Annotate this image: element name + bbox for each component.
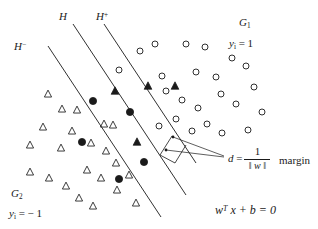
margin-word-text: margin [279, 154, 310, 166]
marker-filled-triangle [111, 87, 119, 94]
distance-denominator: ‖ w ‖ [247, 161, 268, 172]
marker-hollow-circle [137, 48, 143, 54]
marker-hollow-triangle [26, 141, 33, 148]
distance-symbol: d = [228, 153, 242, 164]
label-class-negative: yi = − 1 [9, 208, 42, 221]
label-H-minus-base: H [14, 40, 22, 52]
marker-hollow-triangle [97, 174, 104, 181]
distance-fraction: 1 ‖ w ‖ [244, 146, 270, 171]
marker-hollow-triangle [73, 106, 80, 113]
marker-filled-triangle [133, 138, 141, 145]
equation-rest: x + b = 0 [230, 203, 276, 217]
margin-bracket-segment-2 [175, 145, 186, 163]
label-G2-sub: 2 [19, 193, 23, 201]
marker-hollow-circle [213, 74, 219, 80]
marker-hollow-circle [163, 88, 169, 94]
label-hyperplane-H-minus: H− [14, 41, 26, 52]
marker-hollow-circle [202, 44, 208, 50]
label-y-positive-value: = 1 [239, 37, 253, 49]
margin-endpoint-dot-1 [165, 149, 168, 152]
marker-hollow-triangle [75, 194, 82, 201]
margin-leader-line-1 [166, 150, 224, 157]
label-H-text: H [59, 10, 67, 22]
marker-hollow-circle [156, 123, 162, 129]
marker-hollow-triangle [87, 139, 94, 146]
marker-hollow-circle [233, 101, 239, 107]
marker-hollow-circle [173, 116, 179, 122]
marker-hollow-circle [116, 67, 122, 73]
marker-hollow-circle [179, 97, 185, 103]
label-G2-base: G [11, 187, 19, 199]
figure-canvas [0, 0, 318, 229]
marker-hollow-triangle [57, 144, 64, 151]
marker-hollow-circle [193, 69, 199, 75]
distance-symbol-text: d [228, 152, 234, 164]
equation-T: T [223, 204, 227, 213]
margin-bracket-segment-0 [160, 136, 172, 155]
marker-hollow-triangle [62, 182, 69, 189]
marker-hollow-triangle [102, 147, 109, 154]
label-group-negative: G2 [11, 188, 23, 201]
marker-filled-triangle [171, 82, 179, 89]
marker-hollow-triangle [109, 121, 116, 128]
marker-filled-triangle [144, 82, 152, 89]
marker-hollow-triangle [132, 199, 139, 206]
label-hyperplane-H-plus: H+ [96, 11, 108, 22]
marker-filled-circle [126, 108, 133, 115]
marker-hollow-triangle [44, 90, 51, 97]
marker-hollow-triangle [68, 127, 75, 134]
margin-bracket-group [160, 136, 224, 163]
label-y-negative-sub: i [14, 213, 16, 221]
marker-hollow-circle [243, 63, 249, 69]
marker-hollow-triangle [45, 174, 52, 181]
marker-hollow-circle [245, 127, 251, 133]
marker-hollow-circle [219, 130, 225, 136]
marker-hollow-circle [251, 84, 257, 90]
label-H-plus-sup: + [104, 11, 108, 19]
svm-margin-figure: H H+ H− G1 yi = 1 G2 yi = − 1 d = 1 ‖ w … [0, 0, 318, 229]
margin-endpoint-dot-0 [172, 136, 175, 139]
marker-hollow-triangle [58, 105, 65, 112]
label-hyperplane-H: H [59, 11, 67, 22]
label-H-plus-base: H [96, 10, 104, 22]
marker-hollow-circle [159, 73, 165, 79]
label-margin-word: margin [279, 155, 310, 166]
label-margin-distance: d = 1 ‖ w ‖ [228, 146, 270, 171]
marker-hollow-circle [229, 55, 235, 61]
label-class-positive: yi = 1 [229, 38, 253, 51]
marker-hollow-circle [259, 109, 265, 115]
data-markers-group [26, 41, 265, 209]
marker-filled-circle [140, 158, 147, 165]
distance-numerator: 1 [253, 146, 263, 158]
label-y-negative-value: = − 1 [19, 207, 42, 219]
marker-hollow-circle [218, 91, 224, 97]
marker-hollow-circle [189, 128, 195, 134]
marker-hollow-triangle [89, 202, 96, 209]
label-group-positive: G1 [239, 17, 251, 30]
label-G1-sub: 1 [247, 22, 251, 30]
marker-hollow-circle [152, 41, 158, 47]
label-hyperplane-equation: wT x + b = 0 [215, 204, 276, 216]
marker-filled-circle [89, 97, 96, 104]
distance-equals: = [236, 152, 242, 164]
label-G1-base: G [239, 16, 247, 28]
marker-hollow-triangle [113, 186, 120, 193]
marker-hollow-triangle [26, 168, 33, 175]
marker-filled-circle [78, 138, 85, 145]
marker-hollow-triangle [100, 120, 107, 127]
equation-w: w [215, 203, 223, 217]
label-y-positive-sub: i [234, 43, 236, 51]
marker-hollow-triangle [39, 123, 46, 130]
marker-hollow-triangle [83, 166, 90, 173]
label-H-minus-sup: − [22, 41, 26, 49]
marker-hollow-triangle [112, 159, 119, 166]
marker-hollow-circle [195, 105, 201, 111]
marker-hollow-circle [183, 41, 189, 47]
marker-hollow-circle [204, 121, 210, 127]
marker-filled-circle [115, 175, 122, 182]
